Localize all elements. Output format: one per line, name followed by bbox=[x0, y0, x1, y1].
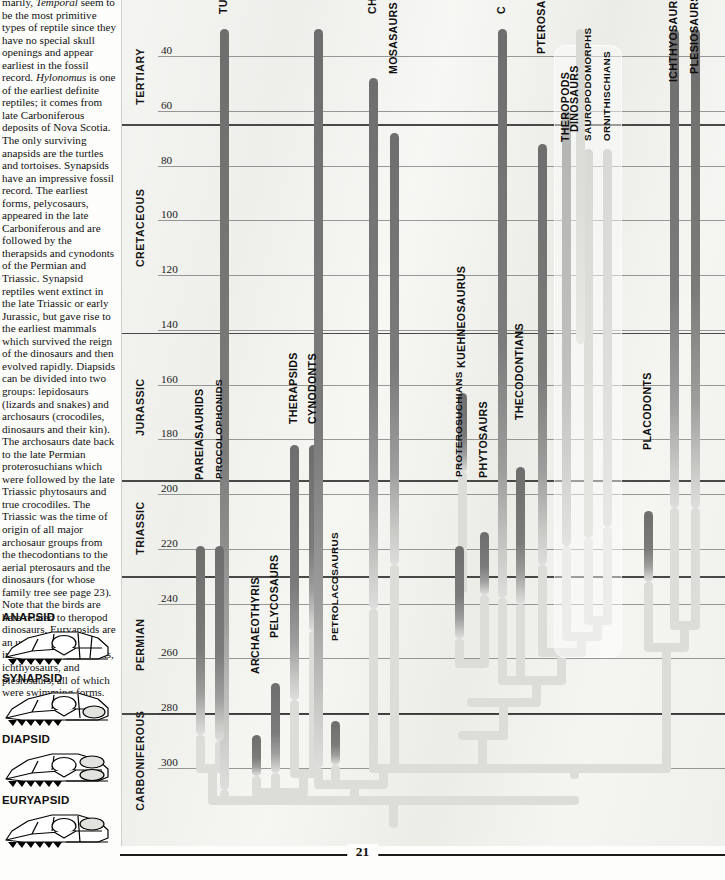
lineage-bar-pterosaurs bbox=[538, 144, 547, 566]
gridline-40 bbox=[158, 56, 725, 57]
taxon-label-pareiasaurids: PAREIASAURIDS bbox=[193, 389, 205, 480]
tick-label-180: 180 bbox=[161, 427, 187, 439]
tick-label-280: 280 bbox=[161, 701, 187, 713]
taxon-label-pterosaurs: PTEROSAURS bbox=[535, 0, 547, 54]
stem-euryapsid bbox=[662, 648, 671, 768]
gridline-100 bbox=[158, 220, 725, 221]
geologic-period-axis: TERTIARYCRETACEOUSJURASSICTRIASSICPERMIA… bbox=[121, 0, 158, 846]
stem-ichthyosaurs bbox=[670, 508, 679, 626]
taxon-label-turtles-and-tortoises: TURTLES AND bbox=[217, 0, 229, 14]
gridline-60 bbox=[158, 111, 725, 112]
tick-label-40: 40 bbox=[161, 44, 187, 56]
stem-mosasaurs bbox=[390, 565, 399, 768]
stem-crocodiles bbox=[498, 598, 507, 680]
tick-label-80: 80 bbox=[161, 154, 187, 166]
period-boundary-195 bbox=[121, 480, 725, 481]
lineage-bar-phytosaurs bbox=[480, 532, 489, 595]
article-paragraph: marily, Temporal seem to be the most pri… bbox=[2, 0, 118, 699]
stem-champsosaurs bbox=[369, 609, 378, 768]
period-label-tertiary: TERTIARY bbox=[121, 29, 158, 125]
synapsid-skull-icon bbox=[2, 685, 112, 729]
tick-label-60: 60 bbox=[161, 99, 187, 111]
gridline-120 bbox=[158, 275, 725, 276]
stem-plesiosaurs bbox=[691, 508, 700, 626]
stem-therapsids bbox=[290, 700, 299, 774]
stem-phytosaurs bbox=[480, 595, 489, 663]
skull-label-euryapsid: EURYAPSID bbox=[2, 794, 118, 806]
taxon-label-plesiosaurs: PLESIOSAURS bbox=[688, 0, 700, 74]
lineage-bar-pareiasaurids bbox=[196, 546, 205, 735]
lineage-bar-pelycosaurs bbox=[271, 683, 280, 773]
taxon-label-sauropodomorphs: SAUROPODOMORPHS bbox=[582, 28, 593, 141]
lineage-bar-mosasaurs bbox=[390, 133, 399, 566]
article-text-column: marily, Temporal seem to be the most pri… bbox=[0, 0, 120, 880]
taxon-label-thecodontians: THECODONTIANS bbox=[513, 323, 525, 420]
taxon-label-theropods: THEROPODS bbox=[559, 72, 571, 142]
skull-label-anapsid: ANAPSID bbox=[2, 611, 118, 623]
page-number: 21 bbox=[347, 844, 379, 860]
skull-diagram-synapsid: SYNAPSID bbox=[2, 672, 118, 729]
euryapsid-skull-icon bbox=[2, 807, 112, 851]
skull-diagram-diapsid: DIAPSID bbox=[2, 733, 118, 790]
taxon-label-ichthyosaurs: ICHTHYOSAURS bbox=[667, 0, 679, 82]
taxon-label-crocodiles: C bbox=[495, 6, 507, 14]
stem-amniote-root bbox=[389, 801, 398, 828]
skull-label-diapsid: DIAPSID bbox=[2, 733, 118, 745]
tick-label-160: 160 bbox=[161, 373, 187, 385]
stem-placodonts bbox=[644, 582, 653, 648]
lineage-bar-ornithischians bbox=[603, 149, 612, 527]
taxon-label-therapsids: THERAPSIDS bbox=[287, 352, 299, 424]
tick-label-120: 120 bbox=[161, 263, 187, 275]
period-label-cretaceous: CRETACEOUS bbox=[121, 124, 158, 332]
lineage-bar-theropods bbox=[562, 111, 571, 546]
taxon-label-ornithischians: ORNITHISCHIANS bbox=[601, 51, 612, 141]
lineage-bar-therapsids bbox=[290, 445, 299, 700]
period-label-permian: PERMIAN bbox=[121, 576, 158, 713]
gridline-240 bbox=[158, 604, 725, 605]
gridline-260 bbox=[158, 658, 725, 659]
chart-background bbox=[121, 0, 725, 846]
lineage-bar-petrolacosaurus bbox=[331, 721, 340, 765]
period-boundary-280 bbox=[121, 713, 725, 714]
taxon-label-petrolacosaurus: PETROLACOSAURUS bbox=[329, 532, 340, 641]
taxon-label-placodonts: PLACODONTS bbox=[641, 372, 653, 450]
period-label-triassic: TRIASSIC bbox=[121, 480, 158, 576]
lineage-bar-crocodiles bbox=[498, 29, 507, 599]
anapsid-skull-icon bbox=[2, 624, 112, 668]
stem-thecodontians bbox=[516, 604, 525, 681]
lineage-bar-proterosuchians bbox=[455, 546, 464, 639]
period-label-carboniferous: CARBONIFEROUS bbox=[121, 713, 158, 809]
taxon-label-proterosuchians: PROTEROSUCHIANS bbox=[453, 371, 464, 477]
tick-label-140: 140 bbox=[161, 318, 187, 330]
taxon-label-kuehneosaurus: KUEHNEOSAURUS bbox=[455, 266, 467, 368]
column-divider bbox=[121, 0, 122, 846]
tick-label-260: 260 bbox=[161, 646, 187, 658]
reptile-phylogeny-chart: TERTIARYCRETACEOUSJURASSICTRIASSICPERMIA… bbox=[121, 0, 725, 846]
taxon-label-cynodonts: CYNODONTS bbox=[306, 353, 318, 424]
taxon-label-mosasaurs: MOSASAURS bbox=[387, 2, 399, 74]
tick-label-100: 100 bbox=[161, 208, 187, 220]
taxon-label-phytosaurs: PHYTOSAURS bbox=[477, 401, 489, 478]
lineage-bar-placodonts bbox=[644, 511, 653, 582]
taxon-label-archaeothyris: ARCHAEOTHYRIS bbox=[249, 577, 261, 674]
period-boundary-141 bbox=[121, 333, 725, 334]
skull-diagram-anapsid: ANAPSID bbox=[2, 611, 118, 668]
skull-diagram-euryapsid: EURYAPSID bbox=[2, 794, 118, 851]
taxon-label-pelycosaurs: PELYCOSAURS bbox=[268, 554, 280, 638]
period-boundary-65 bbox=[121, 124, 725, 125]
lineage-bar-sauropodomorphs bbox=[584, 149, 593, 538]
gridline-200 bbox=[158, 494, 725, 495]
tick-label-300: 300 bbox=[161, 756, 187, 768]
lineage-bar-champsosaurs bbox=[369, 78, 378, 609]
taxon-label-procolophonids: PROCOLOPHONIDS bbox=[213, 379, 224, 479]
lineage-bar-thecodontians bbox=[516, 467, 525, 604]
node-proterosuchian bbox=[455, 659, 489, 668]
stem-euryapsid-link bbox=[570, 768, 579, 779]
tick-label-200: 200 bbox=[161, 482, 187, 494]
lineage-bar-ichthyosaurs bbox=[670, 29, 679, 508]
skull-label-synapsid: SYNAPSID bbox=[2, 672, 118, 684]
tick-label-220: 220 bbox=[161, 537, 187, 549]
tick-label-240: 240 bbox=[161, 592, 187, 604]
gridline-160 bbox=[158, 385, 725, 386]
period-label-jurassic: JURASSIC bbox=[121, 333, 158, 481]
